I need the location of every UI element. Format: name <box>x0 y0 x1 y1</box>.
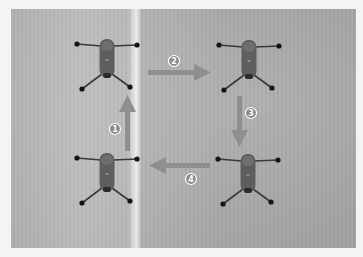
step-3-badge: 3 <box>246 108 257 119</box>
step-1-number: 1 <box>112 125 118 134</box>
step-2-number: 2 <box>171 57 177 66</box>
flight-path-overlay: 1 2 3 4 <box>0 0 363 257</box>
step-4-badge: 4 <box>186 174 197 185</box>
drone-bottom-left-icon <box>74 153 139 206</box>
step-2-badge: 2 <box>169 56 180 67</box>
step-4-number: 4 <box>188 175 194 184</box>
step-1-badge: 1 <box>110 124 121 135</box>
drone-bottom-right-icon <box>215 154 280 207</box>
drone-top-left-icon <box>74 39 139 92</box>
arrow-step-1-up-icon <box>119 95 136 151</box>
step-3-number: 3 <box>248 109 254 118</box>
arrow-step-2-right-icon <box>148 64 211 81</box>
drone-top-right-icon <box>216 40 281 93</box>
arrow-step-3-down-icon <box>231 96 248 147</box>
arrow-step-4-left-icon <box>149 157 210 174</box>
